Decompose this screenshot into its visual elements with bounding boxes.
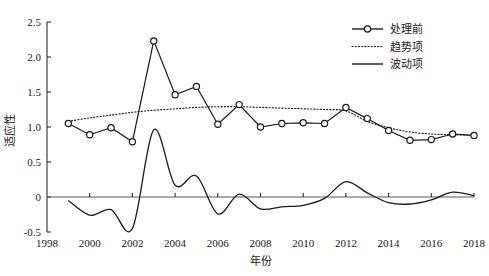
x-tick-label: 1998	[36, 237, 59, 249]
data-point-marker	[279, 120, 285, 126]
data-point-marker	[108, 125, 114, 131]
data-point-marker	[65, 120, 71, 126]
data-point-marker	[87, 132, 93, 138]
data-point-marker	[364, 116, 370, 122]
y-tick-labels: -0.500.51.01.52.02.5	[24, 16, 42, 238]
y-tick-label: 1.0	[27, 121, 41, 133]
data-point-marker	[407, 137, 413, 143]
y-tick-marks	[47, 22, 51, 232]
legend-label-2: 趋势项	[390, 41, 423, 54]
data-point-marker	[129, 139, 135, 145]
adaptability-decomposition-chart: -0.500.51.01.52.02.5 1998200020022004200…	[0, 0, 489, 276]
data-point-marker	[386, 127, 392, 133]
series-line-wave	[68, 129, 474, 232]
data-point-marker	[172, 92, 178, 98]
data-point-marker	[193, 83, 199, 89]
x-tick-label: 2016	[420, 237, 443, 249]
x-tick-label: 2000	[79, 237, 102, 249]
x-tick-label: 2018	[463, 237, 486, 249]
data-point-marker	[236, 102, 242, 108]
x-tick-label: 2002	[121, 237, 143, 249]
chart-canvas: -0.500.51.01.52.02.5 1998200020022004200…	[0, 0, 489, 276]
data-point-marker	[450, 131, 456, 137]
x-tick-label: 2008	[250, 237, 273, 249]
y-axis-title: 适应性	[3, 114, 17, 147]
x-axis-title: 年份	[250, 254, 272, 268]
data-point-marker	[151, 38, 157, 44]
x-tick-label: 2004	[164, 237, 187, 249]
y-tick-label: 0	[36, 191, 42, 203]
x-tick-label: 2010	[292, 237, 315, 249]
data-point-marker	[428, 137, 434, 143]
x-tick-labels: 1998200020022004200620082010201220142016…	[36, 237, 486, 249]
y-tick-label: 2.5	[27, 16, 41, 28]
data-point-marker	[321, 120, 327, 126]
data-point-marker	[215, 121, 221, 127]
x-tick-marks	[90, 193, 474, 197]
x-tick-label: 2006	[207, 237, 230, 249]
y-tick-label: 0.5	[27, 156, 41, 168]
data-point-marker	[343, 104, 349, 110]
x-tick-label: 2012	[335, 237, 357, 249]
legend-marker-circle	[364, 26, 370, 32]
chart-legend: 处理前趋势项波动项	[352, 22, 423, 71]
y-tick-label: 2.0	[27, 51, 41, 63]
legend-label-3: 波动项	[390, 58, 423, 71]
legend-label-1: 处理前	[390, 22, 423, 36]
data-point-marker	[471, 132, 477, 138]
y-tick-label: 1.5	[27, 86, 41, 98]
x-tick-label: 2014	[378, 237, 401, 249]
series-line-trend	[68, 107, 474, 136]
data-point-marker	[300, 120, 306, 126]
data-point-marker	[257, 124, 263, 130]
series-markers-observed	[65, 38, 477, 145]
series-line-observed	[68, 41, 474, 142]
